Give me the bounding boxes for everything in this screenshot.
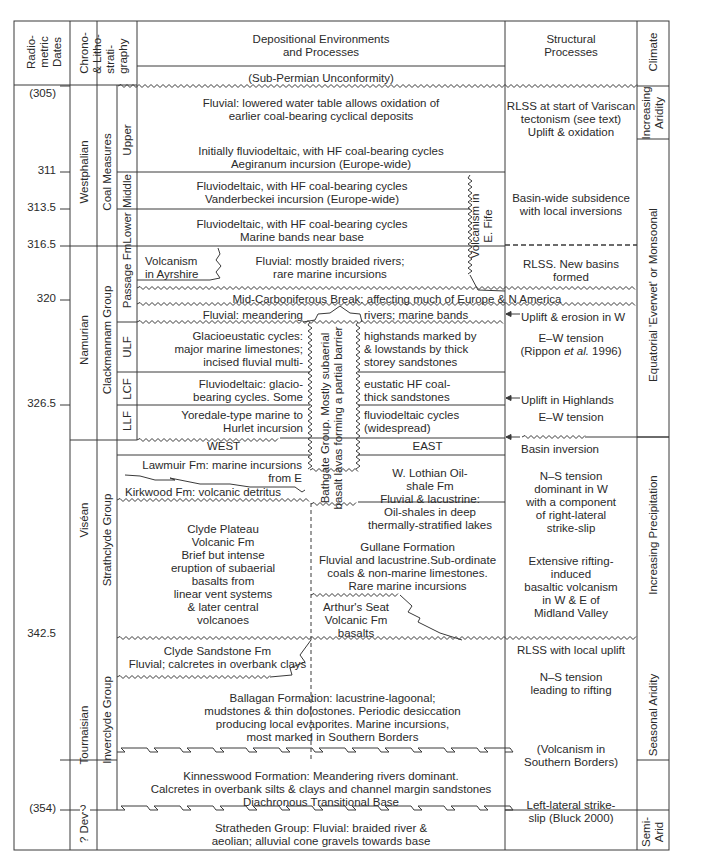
group-clackmannam: Clackmannam Group bbox=[101, 286, 114, 395]
struct-rlss-variscan: RLSS at start of Variscantectonism (see … bbox=[505, 100, 637, 139]
group-strathclyde: Strathclyde Group bbox=[101, 494, 114, 587]
dep-middle: Fluviodeltaic, with HF coal-bearing cycl… bbox=[137, 180, 467, 206]
group-inverclyde: Inverclyde Group bbox=[101, 676, 114, 764]
bathgate-group: Bathgate Group. Mostly subaerialbasalt l… bbox=[319, 327, 345, 510]
climate-seasonal-aridity: Seasonal Aridity bbox=[647, 674, 660, 756]
climate-equatorial: Equatorial 'Everwet' or Monsoonal bbox=[647, 208, 660, 382]
climate-increasing-aridity: IncreasingAridity bbox=[640, 86, 666, 139]
dep-meandering-left: Fluvial: meandering bbox=[150, 309, 303, 322]
date-311: 311 bbox=[6, 164, 56, 176]
chrono-visean: Viséan bbox=[78, 503, 91, 538]
clyde-sandstone-base bbox=[117, 676, 270, 679]
date-354: (354) bbox=[6, 802, 56, 814]
volcanism-ayrshire: Volcanismin Ayrshire bbox=[145, 255, 198, 281]
struct-rlss-local: RLSS with local uplift bbox=[505, 644, 637, 657]
group-coal-measures: Coal Measures bbox=[101, 133, 114, 210]
struct-left-lateral: Left-lateral strike-slip (Bluck 2000) bbox=[505, 799, 637, 825]
dep-gullane: Gullane FormationFluvial and lacustrine.… bbox=[310, 541, 505, 593]
dep-lcf-right: eustatic HF coal-thick sandstones bbox=[364, 378, 450, 404]
date-320: 320 bbox=[6, 292, 56, 304]
chrono-tournaisian: Tournaisian bbox=[78, 706, 91, 765]
header-depositional: Depositional Environments and Processes bbox=[137, 33, 505, 59]
arrow-uplift-highlands-head bbox=[506, 396, 511, 401]
arthurs-seat-top bbox=[311, 594, 398, 597]
dep-upper-a: Fluvial: lowered water table allows oxid… bbox=[137, 97, 505, 123]
header-climate: Climate bbox=[647, 33, 660, 72]
clyde-sandstone-base-end bbox=[270, 675, 292, 677]
ballagan-kinnesswood-boundary bbox=[117, 748, 513, 752]
struct-ns-rifting: N–S tensionleading to rifting bbox=[505, 671, 637, 697]
struct-uplift-erosion: Uplift & erosion in W bbox=[521, 311, 625, 324]
dep-passage: Fluvial: mostly braided rivers;rare mari… bbox=[225, 255, 435, 281]
subunit-lcf: LCF bbox=[121, 378, 134, 400]
ayrshire-boundary bbox=[210, 248, 221, 280]
struct-volcanism-borders: (Volcanism inSouthern Borders) bbox=[505, 743, 637, 769]
dep-clyde-plateau: Clyde PlateauVolcanic Fm Brief but inten… bbox=[137, 523, 309, 627]
volcanism-fife: Volcanism inE. Fife bbox=[469, 194, 495, 259]
dep-lawmuir: Lawmuir Fm: marine incursionsfrom E bbox=[140, 459, 302, 485]
subunit-passage: Passage Fm bbox=[121, 244, 134, 309]
chrono-dev: ? Dev bbox=[78, 813, 91, 843]
climate-semi-arid: Semi-Arid bbox=[640, 817, 666, 847]
dep-lower: Fluviodeltaic, with HF coal-bearing cycl… bbox=[137, 218, 467, 244]
date-305: (305) bbox=[6, 87, 56, 99]
subunit-middle: Middle bbox=[121, 174, 134, 208]
chrono-namurian: Namurian bbox=[78, 315, 91, 365]
mid-carb-upper bbox=[137, 287, 635, 290]
basin-inversion-wave bbox=[522, 436, 585, 439]
arrow-uplift-erosion-head bbox=[506, 312, 511, 317]
date-326-5: 326.5 bbox=[6, 397, 56, 409]
struct-ns-tension: N–S tensiondominant in W with a componen… bbox=[505, 470, 637, 535]
struct-ew-tension-2: E–W tension bbox=[505, 411, 637, 424]
arthurs-seat-boundary bbox=[400, 595, 462, 640]
struct-ew-tension-1: E–W tension (Rippon et al. 1996) bbox=[505, 332, 637, 358]
subunit-upper: Upper bbox=[121, 124, 134, 155]
dep-meandering-right: rivers; marine bands bbox=[364, 309, 468, 322]
dep-llf-right: fluviodeltaic cycles(widespread) bbox=[364, 409, 459, 435]
dep-ballagan: Ballagan Formation: lacustrine-lagoonal;… bbox=[160, 692, 505, 744]
dep-diachronous: Diachronous Transitional Base bbox=[137, 796, 505, 809]
climate-increasing-precipitation: Increasing Precipitation bbox=[647, 475, 660, 595]
dep-clyde-sandstone: Clyde Sandstone FmFluvial; calcretes in … bbox=[120, 645, 315, 671]
struct-extensive-rifting: Extensive rifting-induced basaltic volca… bbox=[505, 555, 637, 620]
struct-basin-wide: Basin-wide subsidencewith local inversio… bbox=[505, 192, 637, 218]
subunit-ulf: ULF bbox=[121, 336, 134, 358]
dep-stratheden: Stratheden Group: Fluvial: braided river… bbox=[137, 822, 505, 848]
dep-ulf-left: Glacioeustatic cycles:major marine limes… bbox=[150, 330, 303, 369]
dep-kinnesswood: Kinnesswood Formation: Meandering rivers… bbox=[137, 770, 505, 796]
bathgate-top bbox=[303, 306, 362, 322]
arrow-basin-inversion-head bbox=[506, 435, 511, 440]
subunit-lower: Lower bbox=[121, 212, 134, 243]
header-structural: Structural Processes bbox=[505, 33, 637, 59]
struct-basin-inversion: Basin inversion bbox=[521, 443, 599, 456]
east-label: EAST bbox=[350, 440, 505, 453]
subunit-llf: LLF bbox=[121, 411, 134, 431]
struct-uplift-highlands: Uplift in Highlands bbox=[521, 394, 614, 407]
dep-upper-b: Initially fluviodeltaic, with HF coal-be… bbox=[137, 145, 505, 171]
dep-kirkwood: Kirkwood Fm: volcanic detritus bbox=[125, 486, 281, 499]
west-label: WEST bbox=[137, 440, 310, 453]
header-radiometric-dates: Radio- metric Dates bbox=[24, 30, 64, 80]
dep-lcf-left: Fluviodeltaic: glacio-bearing cycles. So… bbox=[150, 378, 303, 404]
dep-w-lothian: W. Lothian Oil-shale Fm Fluvial & lacust… bbox=[355, 467, 505, 532]
header-chrono-litho: Chrono- & Litho- strati- graphy bbox=[72, 28, 136, 84]
fife-base bbox=[470, 275, 505, 291]
date-313-5: 313.5 bbox=[6, 201, 56, 213]
struct-rlss-new: RLSS. New basinsformed bbox=[505, 258, 637, 284]
dep-llf-left: Yoredale-type marine toHurlet incursion bbox=[150, 409, 303, 435]
sub-permian-unconformity: (Sub-Permian Unconformity) bbox=[137, 72, 505, 85]
date-316-5: 316.5 bbox=[6, 238, 56, 250]
dep-arthurs-seat: Arthur's SeatVolcanic Fm basalts bbox=[316, 601, 396, 640]
mid-carboniferous-break: Mid-Carboniferous Break: affecting much … bbox=[137, 293, 657, 306]
date-342-5: 342.5 bbox=[6, 627, 56, 639]
dep-ulf-right: highstands marked by& lowstands by thick… bbox=[364, 330, 477, 369]
chrono-westphalian: Westphalian bbox=[78, 140, 91, 203]
